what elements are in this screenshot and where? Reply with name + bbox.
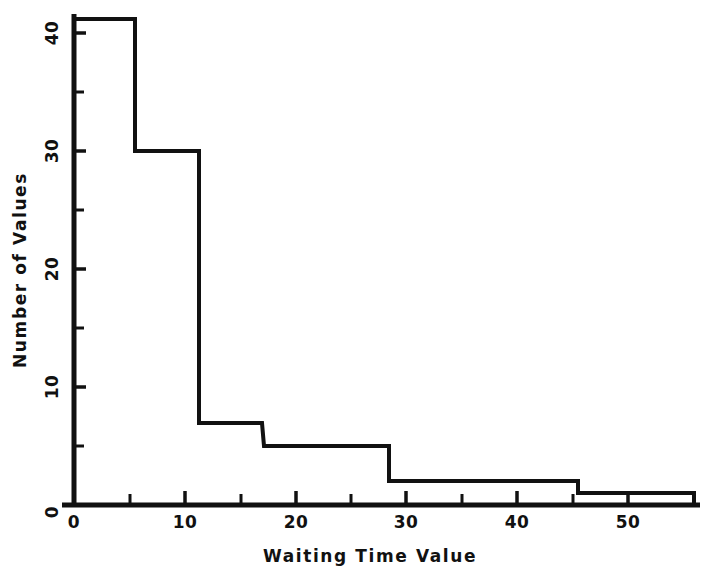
y-tick-label-20: 20 bbox=[42, 257, 62, 282]
x-axis-title: Waiting Time Value bbox=[263, 546, 477, 566]
y-axis-title: Number of Values bbox=[10, 172, 30, 368]
y-tick-label-0: 0 bbox=[42, 506, 62, 518]
y-tick-label-30: 30 bbox=[42, 139, 62, 164]
x-tick-label-30: 30 bbox=[394, 512, 419, 532]
histogram-plot: 0 10 20 30 40 Number of Values bbox=[0, 0, 709, 580]
x-tick-label-10: 10 bbox=[173, 512, 198, 532]
x-tick-label-50: 50 bbox=[616, 512, 641, 532]
x-tick-label-40: 40 bbox=[505, 512, 530, 532]
x-tick-label-20: 20 bbox=[284, 512, 309, 532]
y-tick-label-10: 10 bbox=[42, 375, 62, 400]
x-tick-label-0: 0 bbox=[68, 512, 80, 532]
y-tick-label-40: 40 bbox=[42, 21, 62, 46]
histogram-figure: 0 10 20 30 40 Number of Values bbox=[0, 0, 709, 580]
